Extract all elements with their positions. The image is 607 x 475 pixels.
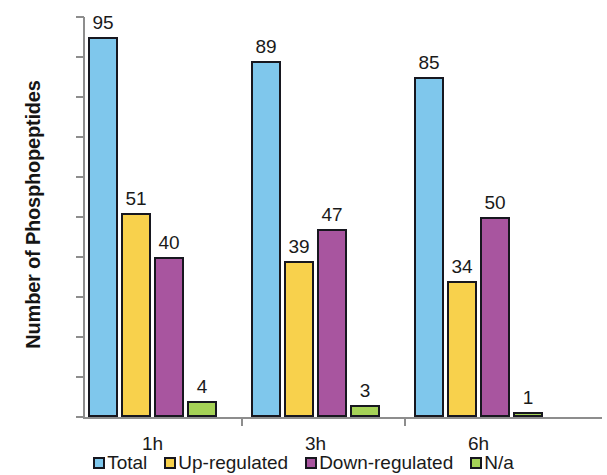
chart-legend: TotalUp-regulatedDown-regulatedN/a [0,452,607,474]
legend-swatch [164,457,176,469]
legend-swatch [93,457,105,469]
x-axis-tick [241,418,243,426]
bar [88,37,118,417]
legend-label: N/a [484,452,514,474]
y-axis-tick [76,416,84,418]
bar-value-label: 51 [106,188,166,210]
legend-swatch [305,457,317,469]
y-axis-tick [76,176,84,178]
bar-value-label: 89 [236,36,296,58]
legend-item: Up-regulated [164,452,288,474]
bar [447,281,477,417]
y-axis-tick [76,56,84,58]
bar-chart: Number of Phosphopeptides 01020304050607… [0,0,607,475]
legend-item: Total [93,452,147,474]
bar-value-label: 50 [465,192,525,214]
legend-item: Down-regulated [305,452,453,474]
bar [414,77,444,417]
bar [284,261,314,417]
x-axis-line [83,417,602,419]
bar-value-label: 95 [73,12,133,34]
bar-value-label: 85 [399,52,459,74]
bar [350,405,380,417]
y-axis-tick [76,136,84,138]
legend-label: Up-regulated [178,452,288,474]
y-axis-tick [76,96,84,98]
legend-label: Down-regulated [319,452,453,474]
y-axis-tick [76,296,84,298]
plot-area: 0102030405060708090100 95514048939473853… [83,17,602,417]
bar-value-label: 40 [139,232,199,254]
legend-label: Total [107,452,147,474]
bar-value-label: 3 [335,380,395,402]
y-axis-tick [76,376,84,378]
bar-value-label: 47 [302,204,362,226]
x-axis-tick [404,418,406,426]
bar-value-label: 39 [269,236,329,258]
y-axis-tick [76,256,84,258]
bar-value-label: 1 [498,387,558,409]
bar-value-label: 4 [172,376,232,398]
bar-value-label: 34 [432,256,492,278]
y-axis-title: Number of Phosphopeptides [22,35,45,395]
y-axis-tick [76,216,84,218]
legend-item: N/a [470,452,514,474]
bar [513,412,543,417]
legend-swatch [470,457,482,469]
bar [187,401,217,417]
y-axis-tick [76,336,84,338]
